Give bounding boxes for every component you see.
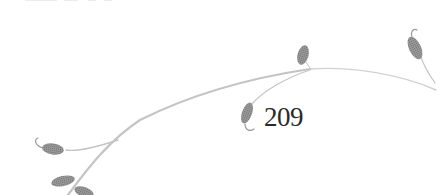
page-number: 209: [264, 104, 303, 131]
vine-leaves: [41, 35, 425, 195]
vine-ornament-icon: [0, 0, 442, 195]
vine-tendrils: [36, 29, 417, 148]
leaf-icon: [239, 101, 256, 125]
leaf-icon: [295, 44, 311, 66]
leaf-icon: [404, 35, 425, 62]
leaf-icon: [41, 142, 64, 156]
vine-stem: [66, 55, 436, 195]
leaf-icon: [50, 174, 76, 189]
